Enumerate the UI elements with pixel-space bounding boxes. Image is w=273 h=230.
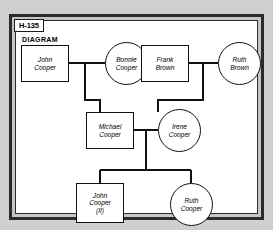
node-label-line: Ruth — [233, 56, 247, 64]
diagram-canvas: John Cooper Bonnie Cooper Frank Brown Ru… — [15, 20, 258, 214]
node-michael-cooper[interactable]: Michael Cooper — [86, 112, 134, 149]
node-label-line: (II) — [96, 207, 104, 215]
node-label-line: Cooper — [99, 131, 121, 139]
node-label-line: John — [38, 56, 52, 64]
node-label-line: Cooper — [89, 199, 111, 207]
diagram-title: DIAGRAM — [22, 36, 58, 43]
node-label-line: Brown — [230, 64, 249, 72]
node-irene-cooper[interactable]: Irene Cooper — [158, 109, 201, 152]
node-label-line: Cooper — [169, 131, 191, 139]
edge-union1-to-michael — [85, 63, 100, 112]
node-label-line: Cooper — [34, 64, 56, 72]
node-label-line: Ruth — [185, 197, 199, 205]
node-label-line: Brown — [156, 64, 175, 72]
node-label-line: Frank — [157, 56, 174, 64]
node-ruth-cooper[interactable]: Ruth Cooper — [170, 183, 213, 226]
node-frank-brown[interactable]: Frank Brown — [141, 45, 189, 82]
node-ruth-brown[interactable]: Ruth Brown — [218, 42, 261, 85]
node-label-line: Bonnie — [116, 56, 137, 64]
node-john-cooper[interactable]: John Cooper — [21, 45, 69, 82]
node-label-line: Cooper — [116, 64, 138, 72]
node-label-line: Cooper — [181, 205, 203, 213]
figure-badge: H-135 — [14, 19, 44, 32]
node-label-line: Michael — [99, 123, 122, 131]
node-label-line: John — [93, 192, 107, 200]
node-label-line: Irene — [172, 123, 187, 131]
node-john-cooper-ii[interactable]: John Cooper (II) — [76, 183, 124, 223]
page-background: H-135 DIAGRAM — [0, 0, 273, 230]
